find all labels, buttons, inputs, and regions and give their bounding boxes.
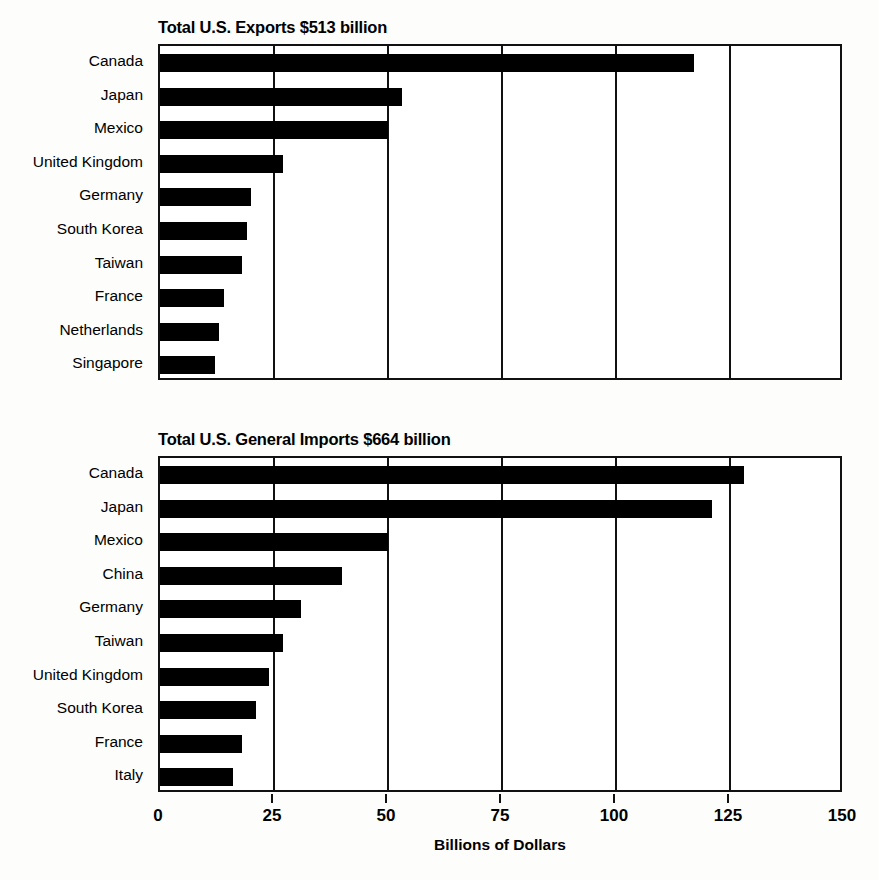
imports-category-label: Italy [0,758,152,792]
imports-category-label: Taiwan [0,624,152,658]
imports-bar-row [160,458,840,492]
exports-bar [160,54,694,72]
exports-category-label: Japan [0,78,152,112]
imports-bar-row [160,727,840,761]
imports-bar-row [160,559,840,593]
x-axis-tick [271,794,273,803]
exports-bar [160,121,388,139]
imports-category-label: Japan [0,490,152,524]
exports-category-label: Canada [0,44,152,78]
exports-category-label: Singapore [0,346,152,380]
exports-bar-row [160,214,840,248]
exports-bar-row [160,248,840,282]
imports-bar-row [160,525,840,559]
imports-bar [160,668,269,686]
x-axis-tick [499,794,501,803]
exports-plot-area [158,44,842,380]
imports-bar [160,735,242,753]
imports-category-label: South Korea [0,691,152,725]
exports-bar-row [160,348,840,382]
x-axis-tick-label: 75 [491,806,510,826]
exports-bar-row [160,315,840,349]
x-axis-ticks [158,794,842,804]
figure-canvas: Total U.S. Exports $513 billion CanadaJa… [0,0,879,880]
exports-category-label: Germany [0,178,152,212]
exports-bar [160,323,219,341]
exports-category-label: South Korea [0,212,152,246]
exports-category-label: United Kingdom [0,145,152,179]
imports-category-label: Germany [0,590,152,624]
x-axis-title: Billions of Dollars [158,836,842,854]
x-axis-tick-label: 25 [263,806,282,826]
exports-bar [160,289,224,307]
imports-bar-row [160,760,840,794]
x-axis-tick-label: 100 [600,806,628,826]
imports-bar-row [160,693,840,727]
imports-bar [160,567,342,585]
imports-bar-row [160,660,840,694]
exports-bar [160,155,283,173]
imports-category-label: France [0,725,152,759]
exports-bar-row [160,180,840,214]
exports-chart-title: Total U.S. Exports $513 billion [158,18,387,37]
exports-bar [160,188,251,206]
exports-bar-row [160,281,840,315]
x-axis-tick-label: 150 [828,806,856,826]
exports-bar [160,88,402,106]
imports-category-label: Canada [0,456,152,490]
x-axis-tick [613,794,615,803]
exports-bar-row [160,147,840,181]
x-axis-tick-labels: 0255075100125150 [158,806,842,828]
imports-bar [160,600,301,618]
exports-bar-row [160,80,840,114]
imports-bar-row [160,492,840,526]
exports-bar [160,256,242,274]
imports-category-label: China [0,557,152,591]
imports-plot-area [158,456,842,792]
exports-bar [160,356,215,374]
exports-bar-row [160,113,840,147]
imports-bar [160,634,283,652]
exports-category-label: Mexico [0,111,152,145]
exports-bar-row [160,46,840,80]
imports-category-label: Mexico [0,523,152,557]
imports-category-label: United Kingdom [0,658,152,692]
exports-category-label: Taiwan [0,246,152,280]
exports-category-label: Netherlands [0,313,152,347]
imports-bar-row [160,626,840,660]
x-axis-tick [385,794,387,803]
x-axis-tick-label: 50 [377,806,396,826]
exports-bars [160,46,840,378]
imports-bar [160,466,744,484]
imports-bar-row [160,592,840,626]
imports-bar [160,533,388,551]
x-axis-tick [727,794,729,803]
exports-bar [160,222,247,240]
imports-bar [160,701,256,719]
imports-bar [160,768,233,786]
exports-category-labels: CanadaJapanMexicoUnited KingdomGermanySo… [0,44,152,380]
exports-category-label: France [0,279,152,313]
x-axis-tick-label: 125 [714,806,742,826]
imports-category-labels: CanadaJapanMexicoChinaGermanyTaiwanUnite… [0,456,152,792]
imports-bars [160,458,840,790]
imports-bar [160,500,712,518]
imports-chart-title: Total U.S. General Imports $664 billion [158,430,451,449]
x-axis-tick-label: 0 [153,806,162,826]
